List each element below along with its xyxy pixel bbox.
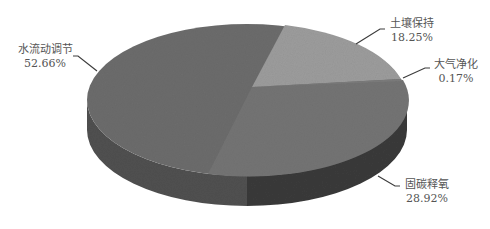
- pie-top: [87, 24, 409, 177]
- label-carbon-name: 固碳释氧: [398, 178, 456, 192]
- label-water-pct: 52.66%: [10, 57, 80, 71]
- label-water-name: 水流动调节: [10, 43, 80, 57]
- label-soil-pct: 18.25%: [384, 31, 440, 45]
- leader-soil: [356, 29, 385, 44]
- label-carbon: 固碳释氧 28.92%: [398, 178, 456, 206]
- label-air-pct: 0.17%: [428, 72, 484, 86]
- label-water: 水流动调节 52.66%: [10, 43, 80, 71]
- leader-carbon: [378, 176, 400, 186]
- label-soil-name: 土壤保持: [384, 17, 440, 31]
- label-air-name: 大气净化: [428, 58, 484, 72]
- label-soil: 土壤保持 18.25%: [384, 17, 440, 45]
- label-carbon-pct: 28.92%: [398, 192, 456, 206]
- leader-air: [403, 68, 430, 78]
- label-air: 大气净化 0.17%: [428, 58, 484, 86]
